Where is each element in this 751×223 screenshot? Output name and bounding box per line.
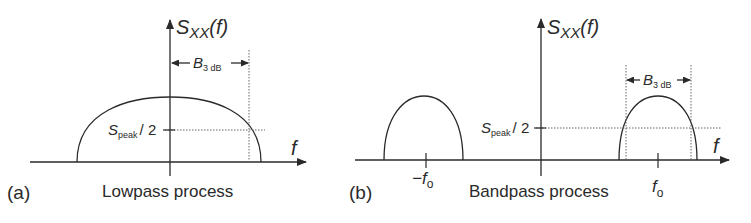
neg-center-label: −fo <box>412 169 434 191</box>
half-power-label: Speak/ 2 <box>108 121 156 140</box>
pos-center-label: fo <box>652 177 664 200</box>
x-axis-label: f <box>291 137 299 159</box>
positive-lobe-curve <box>619 96 697 160</box>
panel-caption: Lowpass process <box>102 182 233 201</box>
y-axis-label: SXX(f) <box>547 16 599 41</box>
panel-bandpass: B3 dB SXX(f) f Speak/ 2 −fo fo (b) Bandp… <box>349 16 729 203</box>
panel-lowpass: B3 dB SXX(f) f Speak/ 2 (a) Lowpass proc… <box>7 16 306 203</box>
bandwidth-label: B3 dB <box>193 54 222 73</box>
panel-label: (a) <box>7 182 30 203</box>
x-axis-label: f <box>713 135 721 157</box>
panel-label: (b) <box>349 182 372 203</box>
negative-lobe-curve <box>384 96 463 160</box>
half-power-label: Speak/ 2 <box>481 119 529 138</box>
y-axis-label: SXX(f) <box>176 16 228 41</box>
psd-diagram: B3 dB SXX(f) f Speak/ 2 (a) Lowpass proc… <box>0 0 751 223</box>
panel-caption: Bandpass process <box>469 182 609 201</box>
bandwidth-label: B3 dB <box>643 71 672 90</box>
